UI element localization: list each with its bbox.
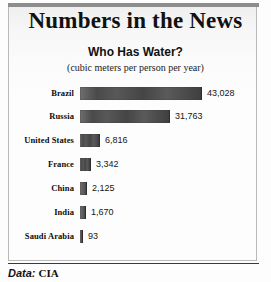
- bar-value-label: 3,342: [96, 159, 119, 169]
- chart-row-saudi-arabia: Saudi Arabia 93: [9, 225, 258, 247]
- bar-track: 31,763: [80, 105, 258, 127]
- category-label: Russia: [9, 111, 80, 121]
- page-title: Numbers in the News: [0, 8, 271, 34]
- bar-track: 2,125: [80, 177, 258, 199]
- bar-france: [80, 158, 91, 171]
- bar-chart: Brazil 43,028 Russia 31,763 United State…: [9, 82, 258, 254]
- chart-row-india: India 1,670: [9, 201, 258, 223]
- bar-brazil: [80, 87, 202, 100]
- source-attribution: Data:CIA: [8, 267, 59, 279]
- source-value: CIA: [39, 267, 59, 279]
- category-label: United States: [9, 135, 80, 145]
- footer-divider: [8, 263, 259, 264]
- source-label: Data:: [8, 267, 36, 279]
- bar-track: 6,816: [80, 129, 258, 151]
- bar-saudi-arabia: [80, 230, 83, 243]
- category-label: China: [9, 183, 80, 193]
- news-chart-graphic: Numbers in the News Who Has Water? (cubi…: [0, 0, 271, 282]
- bar-value-label: 2,125: [92, 183, 115, 193]
- bar-value-label: 6,816: [105, 135, 128, 145]
- bar-value-label: 31,763: [175, 111, 203, 121]
- category-label: Saudi Arabia: [9, 231, 80, 241]
- bar-value-label: 43,028: [207, 88, 235, 98]
- bar-united-states: [80, 134, 100, 147]
- bar-value-label: 1,670: [91, 207, 114, 217]
- category-label: France: [9, 159, 80, 169]
- bar-track: 43,028: [80, 82, 258, 104]
- chart-title: Who Has Water?: [0, 45, 271, 59]
- category-label: Brazil: [9, 88, 80, 98]
- bar-track: 1,670: [80, 201, 258, 223]
- bar-china: [80, 182, 87, 195]
- bar-russia: [80, 110, 170, 123]
- bar-value-label: 93: [88, 231, 98, 241]
- bar-track: 3,342: [80, 153, 258, 175]
- chart-row-brazil: Brazil 43,028: [9, 82, 258, 104]
- chart-row-russia: Russia 31,763: [9, 105, 258, 127]
- chart-row-france: France 3,342: [9, 153, 258, 175]
- chart-row-united-states: United States 6,816: [9, 129, 258, 151]
- bar-track: 93: [80, 225, 258, 247]
- category-label: India: [9, 207, 80, 217]
- chart-subtitle-units: (cubic meters per person per year): [0, 62, 271, 73]
- bar-india: [80, 206, 86, 219]
- chart-row-china: China 2,125: [9, 177, 258, 199]
